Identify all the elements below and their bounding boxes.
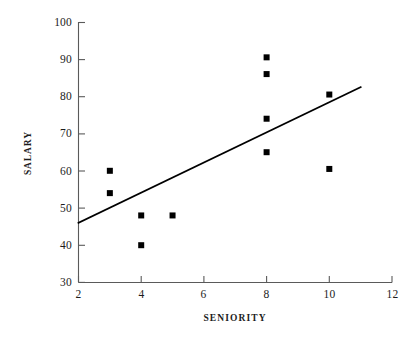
y-tick-label: 70 [40,127,72,139]
y-tick-label: 90 [40,53,72,65]
regression-line [79,87,361,223]
y-tick-label: 50 [40,202,72,214]
data-point [326,166,332,172]
x-tick-label: 6 [188,288,219,300]
data-point [107,190,113,196]
x-tick-label: 8 [251,288,282,300]
data-point [138,242,144,248]
data-point [326,92,332,98]
x-tick-label: 2 [63,288,94,300]
y-tick-label: 80 [40,90,72,102]
y-tick-label: 100 [40,16,72,28]
data-point [264,71,270,77]
x-tick-label: 4 [126,288,157,300]
data-point [138,212,144,218]
data-point [264,54,270,60]
x-tick-label: 12 [377,288,408,300]
y-tick-label: 30 [40,276,72,288]
y-tick-label: 40 [40,239,72,251]
data-point [264,116,270,122]
y-tick-label: 60 [40,165,72,177]
y-axis-title: SALARY [23,121,33,185]
x-tick-label: 10 [314,288,345,300]
data-point [170,212,176,218]
data-point [264,149,270,155]
x-tick-marks [79,276,393,283]
data-point-group [107,54,332,248]
y-tick-marks [79,23,86,283]
data-point [107,168,113,174]
x-axis-title: SENIORITY [175,313,295,323]
scatter-plot-figure: 100 90 80 70 60 50 40 30 2 4 6 8 10 12 S… [0,0,418,338]
